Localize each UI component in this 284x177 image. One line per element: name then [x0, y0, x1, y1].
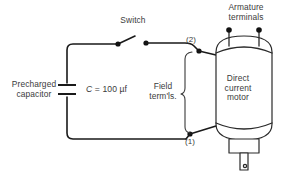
wire-left-loop-lower — [67, 97, 186, 139]
switch-left-terminal-dot[interactable] — [115, 41, 120, 46]
armature-terminal-left-dot[interactable] — [226, 27, 232, 33]
label-node-1: (1) — [181, 137, 199, 147]
label-capacitor-value: C = 100 µf — [86, 85, 148, 95]
motor-bearing-housing — [229, 139, 259, 153]
label-precharged-capacitor: Precharged capacitor — [2, 80, 66, 99]
circuit-diagram: Switch Armature terminals Precharged cap… — [0, 0, 284, 177]
label-field-terminals: Field term'ls. — [142, 82, 184, 101]
label-switch: Switch — [104, 16, 162, 26]
wire-left-loop — [67, 44, 118, 83]
switch-blade[interactable] — [118, 36, 135, 44]
wire-node2-to-motor — [199, 51, 216, 55]
armature-terminal-right-dot[interactable] — [256, 27, 262, 33]
label-dc-motor: Direct current motor — [212, 74, 264, 103]
label-armature-terminals: Armature terminals — [210, 3, 282, 22]
capacitor-value-text: = 100 µf — [92, 84, 127, 94]
label-node-2: (2) — [182, 35, 200, 45]
